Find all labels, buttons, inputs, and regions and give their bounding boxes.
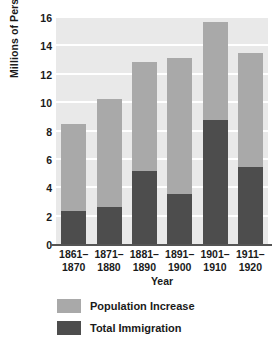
- bar-group: [97, 18, 122, 245]
- bar-segment-population-increase: [97, 99, 122, 207]
- gridline: [56, 101, 268, 103]
- y-axis-tick-label: 12: [20, 69, 52, 81]
- stacked-bar-chart: Millions of Persons 0246810121416 1861–1…: [0, 0, 275, 345]
- bar-segment-population-increase: [132, 62, 157, 171]
- y-axis-tick-label: 6: [20, 154, 52, 166]
- y-axis-tick-label: 10: [20, 97, 52, 109]
- bar-segment-total-immigration: [238, 167, 263, 245]
- gridline: [56, 44, 268, 46]
- bar-group: [203, 18, 228, 245]
- bar-group: [167, 18, 192, 245]
- gridline: [56, 16, 268, 18]
- gridline: [56, 215, 268, 217]
- bar-segment-population-increase: [238, 53, 263, 167]
- bar-segment-total-immigration: [97, 207, 122, 245]
- y-axis-tick-label: 0: [20, 239, 52, 251]
- legend-label: Population Increase: [90, 300, 195, 312]
- y-axis-tick-label: 16: [20, 12, 52, 24]
- y-axis-tick-label: 8: [20, 126, 52, 138]
- x-axis-tick-labels: 1861–18701871–18801881–18901891–19001901…: [56, 248, 268, 278]
- x-axis-tick-label: 1911–1920: [228, 248, 272, 274]
- y-axis-title: Millions of Persons: [8, 0, 20, 78]
- y-axis-tick-labels: 0246810121416: [20, 18, 52, 245]
- gridline: [56, 73, 268, 75]
- bar-segment-population-increase: [61, 124, 86, 211]
- bar-segment-total-immigration: [203, 120, 228, 245]
- gridline: [56, 158, 268, 160]
- bar-group: [238, 18, 263, 245]
- bar-group: [61, 18, 86, 245]
- legend-label: Total Immigration: [90, 322, 181, 334]
- y-axis-tick-label: 14: [20, 40, 52, 52]
- y-axis-tick-label: 2: [20, 211, 52, 223]
- legend-swatch: [57, 321, 81, 335]
- gridline: [56, 130, 268, 132]
- plot-area: [56, 18, 268, 245]
- bar-segment-total-immigration: [167, 194, 192, 245]
- legend-swatch: [57, 299, 81, 313]
- bar-segment-total-immigration: [61, 211, 86, 245]
- x-axis-title: Year: [56, 275, 268, 287]
- legend-item: Population Increase: [57, 296, 257, 315]
- gridline: [56, 186, 268, 188]
- legend-item: Total Immigration: [57, 318, 257, 337]
- x-axis-line: [50, 244, 272, 246]
- y-axis-tick-label: 4: [20, 182, 52, 194]
- bar-segment-total-immigration: [132, 171, 157, 245]
- bar-segment-population-increase: [167, 58, 192, 194]
- bar-group: [132, 18, 157, 245]
- chart-legend: Population IncreaseTotal Immigration: [57, 296, 257, 340]
- bar-segment-population-increase: [203, 22, 228, 120]
